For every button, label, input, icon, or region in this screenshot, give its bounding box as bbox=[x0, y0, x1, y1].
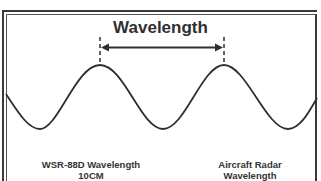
aircraft-radar-label-name: Aircraft Radar Wavelength bbox=[192, 159, 308, 181]
aircraft-radar-label: Aircraft Radar Wavelength 3CM bbox=[192, 159, 308, 181]
double-arrow-icon bbox=[101, 44, 223, 52]
wsr-88d-label-value: 10CM bbox=[28, 170, 154, 181]
sine-wave bbox=[6, 65, 317, 129]
wavelength-title: Wavelength bbox=[0, 18, 321, 38]
wsr-88d-label: WSR-88D Wavelength 10CM bbox=[28, 159, 154, 181]
wsr-88d-label-name: WSR-88D Wavelength bbox=[28, 159, 154, 170]
